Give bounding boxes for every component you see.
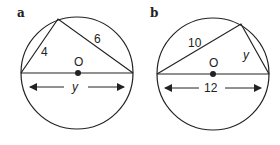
- figure-b: b O 10 y 12: [150, 6, 269, 130]
- diagram-canvas: a O 4 6 y b O 10 y 12: [0, 0, 280, 145]
- center-label-a: O: [74, 55, 83, 69]
- side-label-a-left: 4: [41, 45, 48, 59]
- side-label-b-left: 10: [188, 36, 202, 50]
- side-label-b-right: y: [242, 48, 250, 62]
- figure-a: a O 4 6 y: [17, 6, 133, 129]
- center-point-a: [75, 70, 81, 76]
- part-label-b: b: [150, 6, 158, 20]
- side-label-a-right: 6: [94, 32, 101, 46]
- center-point-b: [210, 71, 216, 77]
- part-label-a: a: [17, 6, 25, 20]
- diameter-label-a: y: [71, 80, 79, 94]
- center-label-b: O: [209, 56, 218, 70]
- diameter-label-b: 12: [204, 81, 218, 95]
